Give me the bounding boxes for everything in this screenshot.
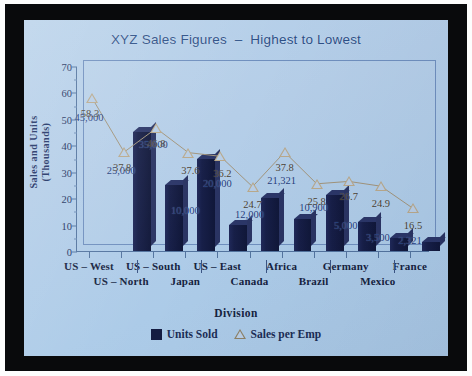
line-value-label-6: 24.7 <box>243 199 261 210</box>
legend-triangle-icon <box>234 329 246 339</box>
x-tick-mark <box>378 252 379 258</box>
bar-4 <box>229 225 247 251</box>
plot-axes: 010203040506070 <box>76 67 429 252</box>
bar-side-face <box>311 209 316 246</box>
category-separator <box>201 260 202 273</box>
bar-face <box>294 219 312 251</box>
bar-face <box>229 225 247 251</box>
category-label-8: Brazil <box>299 275 329 287</box>
category-separator <box>137 260 138 273</box>
bar-2 <box>165 185 183 251</box>
y-tick-minor <box>74 238 77 239</box>
bar-5 <box>261 198 279 251</box>
line-value-label-9: 26.7 <box>340 191 358 202</box>
line-value-label-7: 37.8 <box>275 162 293 173</box>
screenshot-root: XYZ Sales Figures – Highest to Lowest Sa… <box>0 0 472 376</box>
category-label-4: Japan <box>170 275 200 287</box>
category-label-10: Mexico <box>360 275 395 287</box>
bar-value-label-4: 10,000 <box>171 205 200 216</box>
legend-item-sales-per-emp: Sales per Emp <box>234 328 322 340</box>
legend-label-units-sold: Units Sold <box>167 328 218 340</box>
x-tick-mark <box>282 252 283 258</box>
legend-label-sales-per-emp: Sales per Emp <box>251 328 322 340</box>
y-tick-label: 70 <box>62 62 78 73</box>
y-tick-label: 20 <box>62 194 78 205</box>
line-value-label-10: 24.9 <box>372 198 390 209</box>
bar-1 <box>133 132 151 251</box>
x-tick-mark <box>185 252 186 258</box>
y-tick-label: 40 <box>62 141 78 152</box>
bar-value-label-7: 21,321 <box>267 175 296 186</box>
y-tick-label: 30 <box>62 167 78 178</box>
line-value-label-11: 16.5 <box>404 220 422 231</box>
bar-side-face <box>215 149 220 247</box>
bar-value-label-10: 3,500 <box>366 232 390 243</box>
bar-value-label-11: 2,321 <box>398 235 422 246</box>
bar-face <box>165 185 183 251</box>
line-value-label-4: 37.6 <box>181 165 199 176</box>
x-tick-mark <box>217 252 218 258</box>
category-label-11: France <box>393 260 427 272</box>
x-tick-mark <box>153 252 154 258</box>
y-axis-label: Sales and Units (Thousands) <box>28 92 52 212</box>
y-tick-label: 10 <box>62 220 78 231</box>
presentation-slide: XYZ Sales Figures – Highest to Lowest Sa… <box>24 20 448 356</box>
category-label-3: US – South <box>126 260 181 272</box>
chart-legend: Units Sold Sales per Emp <box>24 328 448 340</box>
category-separator <box>266 260 267 273</box>
y-tick-minor <box>74 185 77 186</box>
x-tick-mark <box>121 252 122 258</box>
x-axis-label: Division <box>24 307 448 319</box>
y-axis-label-line2: (Thousands) <box>40 92 52 212</box>
y-tick-minor <box>74 106 77 107</box>
y-tick-minor <box>74 133 77 134</box>
bar-face <box>133 132 151 251</box>
category-separator <box>330 260 331 273</box>
category-label-7: Africa <box>266 260 297 272</box>
legend-item-units-sold: Units Sold <box>151 328 218 340</box>
category-label-1: US – West <box>64 260 114 272</box>
bar-face <box>422 242 440 251</box>
y-tick-label: 0 <box>67 247 77 258</box>
line-value-label-2: 37.8 <box>113 162 131 173</box>
category-label-6: Canada <box>231 275 269 287</box>
line-value-label-3: 46.8 <box>147 138 165 149</box>
y-axis-label-line1: Sales and Units <box>28 92 40 212</box>
bar-side-face <box>440 232 445 246</box>
category-label-2: US – North <box>94 275 149 287</box>
bar-value-label-9: 5,000 <box>334 220 358 231</box>
legend-square-icon <box>151 329 162 340</box>
line-value-label-8: 25.8 <box>307 196 325 207</box>
y-tick-minor <box>74 159 77 160</box>
bar-10 <box>422 242 440 251</box>
bar-6 <box>294 219 312 251</box>
x-tick-mark <box>314 252 315 258</box>
category-separator <box>394 260 395 273</box>
y-tick-label: 60 <box>62 88 78 99</box>
bar-side-face <box>279 188 284 246</box>
y-tick-minor <box>74 80 77 81</box>
x-tick-mark <box>89 252 90 258</box>
x-tick-mark <box>250 252 251 258</box>
x-tick-mark <box>410 252 411 258</box>
x-tick-mark <box>346 252 347 258</box>
y-tick-minor <box>74 212 77 213</box>
bar-value-label-6: 12,000 <box>235 209 264 220</box>
bar-value-label-5: 20,000 <box>203 178 232 189</box>
line-value-label-5: 36.2 <box>213 168 231 179</box>
chart-plot-area: Sales and Units (Thousands) 010203040506… <box>24 20 448 356</box>
line-value-label-1: 58.3 <box>81 108 99 119</box>
bar-face <box>261 198 279 251</box>
